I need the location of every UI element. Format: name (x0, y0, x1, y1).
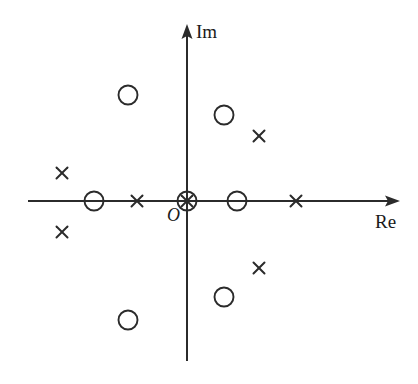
axis-group (28, 24, 400, 361)
zeros-layer (85, 86, 247, 330)
zero-marker (119, 311, 138, 330)
pole-marker (254, 263, 265, 274)
plot-canvas (0, 0, 418, 384)
pole-marker (57, 168, 68, 179)
zero-marker (119, 86, 138, 105)
origin-label: O (167, 206, 180, 224)
pole-marker (57, 227, 68, 238)
zero-marker (215, 106, 234, 125)
real-axis-label: Re (375, 212, 396, 231)
imag-axis-label: Im (196, 22, 217, 41)
zero-marker (215, 288, 234, 307)
pole-zero-plot: Im Re O (0, 0, 418, 384)
pole-marker (254, 131, 265, 142)
